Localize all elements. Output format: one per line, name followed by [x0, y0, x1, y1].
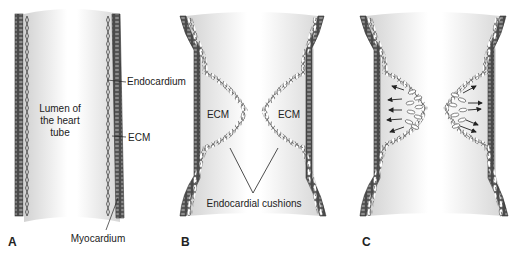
- panel-b: ECM ECM Endocardial cushions B: [180, 12, 326, 249]
- myocardium-label: Myocardium: [71, 233, 125, 244]
- ecm-label-left-b: ECM: [207, 109, 229, 120]
- lumen-label-line2: the heart: [40, 115, 80, 126]
- lumen-label-line1: Lumen of: [39, 103, 81, 114]
- ecm-label-a: ECM: [128, 132, 150, 143]
- ecm-label-right-b: ECM: [278, 109, 300, 120]
- panel-c: C: [360, 12, 508, 249]
- panel-letter-a: A: [8, 235, 17, 249]
- endocardial-cushion-diagram: Lumen of the heart tube Endocardium ECM …: [0, 0, 520, 257]
- myocardium-left-a: [15, 14, 23, 216]
- endocardium-label: Endocardium: [127, 76, 186, 87]
- panel-letter-c: C: [362, 235, 371, 249]
- lumen-c: [366, 12, 504, 216]
- endocardial-cushions-label: Endocardial cushions: [206, 198, 301, 209]
- lumen-label-line3: tube: [50, 127, 70, 138]
- panel-a: Lumen of the heart tube Endocardium ECM …: [8, 9, 186, 249]
- panel-letter-b: B: [181, 235, 190, 249]
